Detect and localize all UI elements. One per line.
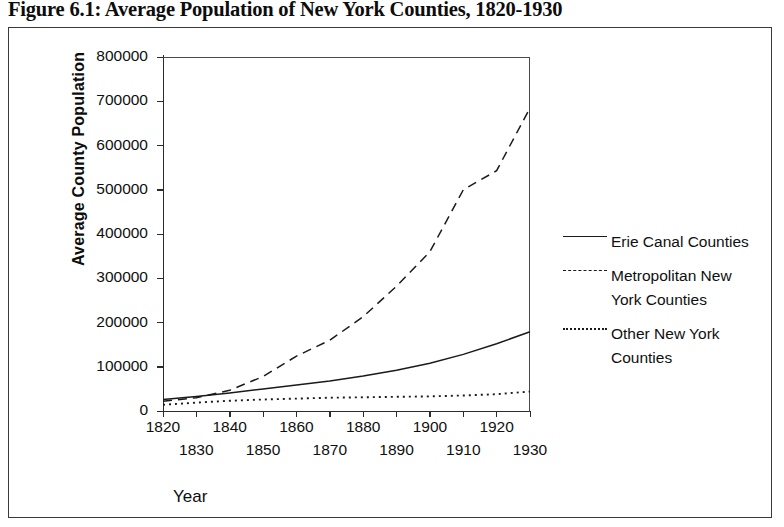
legend-label-other-line2: Counties: [611, 346, 769, 370]
legend-swatch-dotted-icon: [563, 328, 607, 330]
legend-label-metropolitan-line1: Metropolitan New: [611, 264, 769, 288]
legend-label-metropolitan-line2: York Counties: [611, 288, 769, 312]
figure-page: Figure 6.1: Average Population of New Yo…: [0, 0, 784, 527]
chart-legend: Erie Canal Counties Metropolitan New Yor…: [563, 228, 769, 380]
series-line-solid: [163, 332, 530, 400]
series-line-dashed: [163, 108, 530, 401]
legend-label-other-line1: Other New York: [611, 322, 769, 346]
legend-entry-metropolitan[interactable]: Metropolitan New York Counties: [563, 264, 769, 312]
legend-entry-other[interactable]: Other New York Counties: [563, 322, 769, 370]
legend-entry-erie-canal[interactable]: Erie Canal Counties: [563, 230, 769, 254]
legend-swatch-solid-icon: [563, 236, 607, 237]
legend-label-erie-canal: Erie Canal Counties: [611, 230, 769, 254]
legend-swatch-dashed-icon: [563, 270, 607, 271]
